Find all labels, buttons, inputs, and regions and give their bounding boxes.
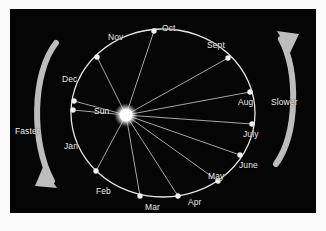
month-marker-sept xyxy=(225,55,230,60)
sun-label: Sun xyxy=(94,107,109,116)
radius-line-july xyxy=(126,115,252,124)
figure-container: Sun Faster Slower JanFebMarAprMayJuneJul… xyxy=(0,0,326,231)
month-marker-apr xyxy=(175,193,180,198)
radius-line-oct xyxy=(126,31,154,115)
month-marker-aug xyxy=(247,89,252,94)
month-label-dec: Dec xyxy=(62,75,77,84)
radius-line-mar xyxy=(126,115,140,196)
month-label-sept: Sept xyxy=(207,41,225,50)
month-marker-nov xyxy=(94,54,99,59)
radius-line-june xyxy=(126,115,240,155)
month-label-feb: Feb xyxy=(96,187,111,196)
month-label-june: June xyxy=(239,161,258,170)
month-marker-mar xyxy=(137,193,142,198)
month-label-apr: Apr xyxy=(188,198,202,207)
month-label-jan: Jan xyxy=(64,142,78,151)
radius-line-apr xyxy=(126,115,178,196)
month-marker-oct xyxy=(151,28,156,33)
month-label-may: May xyxy=(208,172,224,181)
month-marker-july xyxy=(249,121,254,126)
orbit-diagram-panel: Sun Faster Slower JanFebMarAprMayJuneJul… xyxy=(10,9,316,213)
faster-label: Faster xyxy=(15,127,40,136)
radius-line-sept xyxy=(126,58,228,115)
month-label-oct: Oct xyxy=(162,24,176,33)
faster-arrow-icon xyxy=(35,43,57,188)
month-label-aug: Aug xyxy=(238,98,253,107)
slower-label: Slower xyxy=(271,98,298,107)
month-marker-jan xyxy=(70,107,75,112)
month-marker-feb xyxy=(93,168,98,173)
month-label-nov: Nov xyxy=(108,33,123,42)
month-label-july: July xyxy=(243,130,259,139)
radius-line-may xyxy=(126,115,218,181)
orbit-diagram-svg xyxy=(10,9,316,213)
month-marker-june xyxy=(237,152,242,157)
month-marker-dec xyxy=(71,98,76,103)
sun-core xyxy=(120,109,133,122)
radius-line-aug xyxy=(126,92,250,115)
month-label-mar: Mar xyxy=(145,203,160,212)
